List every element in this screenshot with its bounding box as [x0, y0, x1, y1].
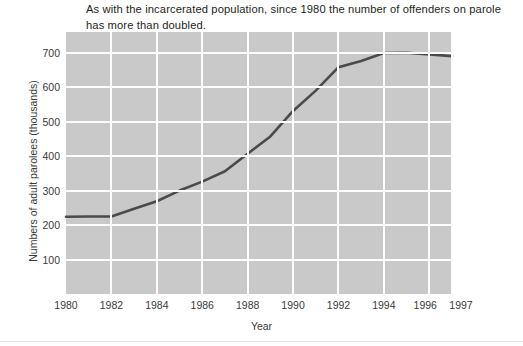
y-tick-label: 300 — [20, 185, 60, 197]
gridline-horizontal — [66, 224, 452, 226]
gridline-horizontal — [66, 259, 452, 261]
x-tick-label: 1996 — [414, 299, 437, 311]
parolees-line-chart-figure: As with the incarcerated population, sin… — [0, 0, 523, 346]
y-tick-label: 100 — [20, 254, 60, 266]
y-tick-label: 400 — [20, 150, 60, 162]
y-axis-tick-labels: 100200300400500600700 — [16, 32, 60, 294]
gridline-horizontal — [66, 190, 452, 192]
gridline-vertical — [428, 32, 430, 294]
gridline-vertical — [110, 32, 112, 294]
x-tick-label: 1994 — [372, 299, 395, 311]
x-tick-label: 1980 — [54, 299, 77, 311]
plot-area — [66, 32, 452, 294]
gridline-vertical — [383, 32, 385, 294]
x-tick-label: 1984 — [145, 299, 168, 311]
x-tick-label: 1997 — [449, 299, 472, 311]
y-tick-label: 200 — [20, 219, 60, 231]
page-divider-rule — [0, 341, 523, 342]
gridline-horizontal — [66, 52, 452, 54]
data-series-line — [66, 32, 452, 294]
gridline-horizontal — [66, 121, 452, 123]
gridline-vertical — [201, 32, 203, 294]
gridline-vertical — [337, 32, 339, 294]
gridline-horizontal — [66, 155, 452, 157]
gridline-vertical — [156, 32, 158, 294]
x-tick-label: 1988 — [236, 299, 259, 311]
figure-caption: As with the incarcerated population, sin… — [86, 2, 511, 33]
y-tick-label: 600 — [20, 81, 60, 93]
gridline-horizontal — [66, 86, 452, 88]
x-tick-label: 1982 — [100, 299, 123, 311]
gridline-vertical — [292, 32, 294, 294]
y-tick-label: 500 — [20, 116, 60, 128]
x-tick-label: 1986 — [191, 299, 214, 311]
gridline-vertical — [451, 32, 453, 294]
x-axis-title: Year — [0, 320, 523, 332]
gridline-vertical — [247, 32, 249, 294]
x-axis-tick-labels: 1980198219841986198819901992199419961997 — [66, 299, 452, 315]
x-tick-label: 1990 — [281, 299, 304, 311]
y-tick-label: 700 — [20, 47, 60, 59]
x-tick-label: 1992 — [327, 299, 350, 311]
